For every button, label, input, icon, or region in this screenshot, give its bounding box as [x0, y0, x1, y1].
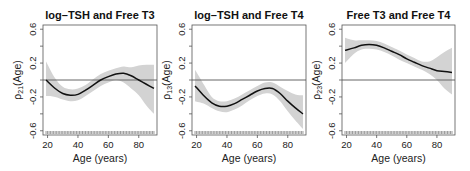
- x-tick-label: 60: [252, 139, 263, 150]
- panel-3: -0.6-0.20.20.620406080Free T3 and Free T…: [310, 9, 455, 164]
- x-tick-label: 80: [432, 139, 443, 150]
- confidence-band: [46, 61, 154, 113]
- y-tick-label: -0.2: [27, 89, 38, 105]
- y-tick-label: -0.6: [27, 123, 38, 139]
- chart-title: Free T3 and Free T4: [347, 9, 452, 21]
- figure: -0.6-0.20.20.620406080log–TSH and Free T…: [0, 0, 470, 171]
- y-axis-label-suffix: (Age): [310, 60, 322, 86]
- y-tick-label: 0.6: [27, 23, 38, 36]
- y-axis-label-suffix: (Age): [160, 60, 172, 86]
- y-tick-label: 0.2: [27, 56, 38, 69]
- y-axis-label-subscript: 23: [316, 86, 323, 94]
- y-tick-label: 0.6: [326, 23, 337, 36]
- x-tick-label: 40: [73, 139, 84, 150]
- chart-title: log–TSH and Free T4: [194, 9, 304, 21]
- y-axis-label-suffix: (Age): [11, 60, 23, 86]
- panel-2: -0.6-0.20.20.620406080log–TSH and Free T…: [160, 9, 306, 164]
- x-tick-label: 20: [191, 139, 202, 150]
- y-tick-label: -0.6: [176, 123, 187, 139]
- panel-1: -0.6-0.20.20.620406080log–TSH and Free T…: [11, 9, 157, 164]
- x-tick-label: 60: [401, 139, 412, 150]
- x-axis-label: Age (years): [73, 152, 127, 164]
- x-tick-label: 40: [371, 139, 382, 150]
- chart-title: log–TSH and Free T3: [45, 9, 154, 21]
- y-axis-label: ρ21(Age): [11, 60, 24, 99]
- y-tick-label: 0.2: [176, 56, 187, 69]
- y-tick-label: -0.6: [326, 123, 337, 139]
- x-tick-label: 20: [341, 139, 352, 150]
- y-tick-label: -0.2: [326, 89, 337, 105]
- y-tick-label: 0.6: [176, 23, 187, 36]
- x-tick-label: 40: [222, 139, 233, 150]
- x-axis-label: Age (years): [222, 152, 276, 164]
- x-tick-label: 20: [42, 139, 53, 150]
- y-axis-label-subscript: 13: [166, 86, 173, 94]
- y-tick-label: -0.2: [176, 89, 187, 105]
- x-tick-label: 80: [282, 139, 293, 150]
- y-axis-label: ρ23(Age): [310, 60, 323, 99]
- y-tick-label: 0.2: [326, 56, 337, 69]
- y-axis-label-subscript: 21: [17, 86, 24, 94]
- x-tick-label: 80: [133, 139, 144, 150]
- x-axis-label: Age (years): [371, 152, 425, 164]
- x-tick-label: 60: [103, 139, 114, 150]
- y-axis-label: ρ13(Age): [160, 60, 173, 99]
